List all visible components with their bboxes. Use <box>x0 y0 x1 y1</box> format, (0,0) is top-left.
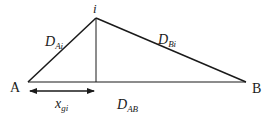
edge-label-DAi: DAi <box>44 34 64 51</box>
edge-i-B <box>96 18 246 82</box>
vertex-label-B: B <box>252 81 261 96</box>
edge-label-DAB: DAB <box>116 97 139 114</box>
vertex-label-A: A <box>10 80 21 95</box>
triangle-diagram: i A B DAi DBi DAB xgi <box>0 0 270 116</box>
vertex-label-i: i <box>93 1 97 16</box>
dimension-label-xgi: xgi <box>54 96 69 113</box>
edge-label-DBi: DBi <box>157 32 177 49</box>
